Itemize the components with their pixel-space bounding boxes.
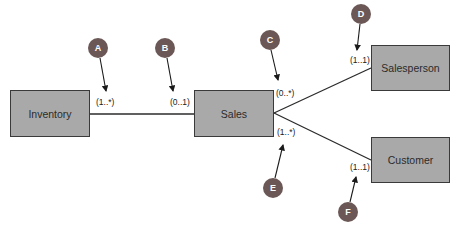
marker-a: A bbox=[88, 38, 108, 58]
entity-inventory: Inventory bbox=[10, 90, 90, 137]
marker-letter: D bbox=[358, 9, 365, 19]
entity-salesperson: Salesperson bbox=[371, 45, 450, 91]
marker-letter: F bbox=[345, 207, 351, 217]
multiplicity-a: (1..*) bbox=[96, 97, 114, 107]
marker-letter: C bbox=[267, 35, 274, 45]
marker-letter: E bbox=[270, 183, 276, 193]
multiplicity-b: (0..1) bbox=[170, 97, 190, 107]
multiplicity-e: (1..*) bbox=[277, 127, 295, 137]
marker-f: F bbox=[338, 202, 358, 222]
multiplicity-c: (0..*) bbox=[276, 88, 294, 98]
multiplicity-f: (1..1) bbox=[350, 162, 370, 172]
entity-label: Customer bbox=[388, 154, 434, 166]
pointer-arrow-e bbox=[275, 145, 283, 178]
marker-e: E bbox=[263, 178, 283, 198]
marker-letter: A bbox=[95, 43, 102, 53]
entity-label: Sales bbox=[221, 108, 247, 120]
pointer-arrow-b bbox=[167, 58, 173, 91]
pointer-arrow-c bbox=[271, 50, 278, 80]
entity-label: Salesperson bbox=[381, 62, 439, 74]
entity-customer: Customer bbox=[371, 137, 450, 183]
marker-letter: B bbox=[162, 43, 169, 53]
marker-c: C bbox=[260, 30, 280, 50]
entity-label: Inventory bbox=[28, 108, 71, 120]
pointer-arrow-a bbox=[100, 58, 106, 91]
marker-d: D bbox=[351, 4, 371, 24]
multiplicity-d: (1..1) bbox=[350, 55, 370, 65]
pointer-arrow-f bbox=[350, 177, 356, 202]
entity-sales: Sales bbox=[194, 90, 274, 137]
pointer-arrow-d bbox=[357, 24, 360, 50]
marker-b: B bbox=[155, 38, 175, 58]
